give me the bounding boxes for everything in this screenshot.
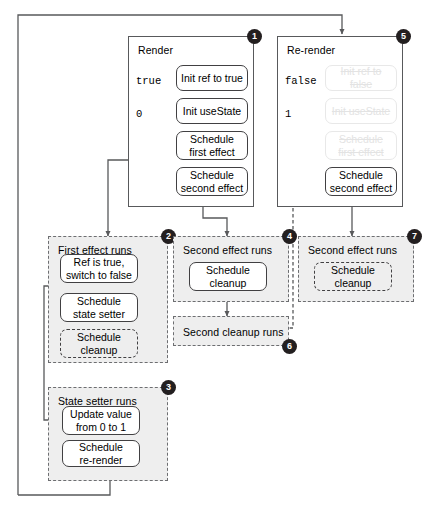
step-rerender-schedule-second-effect[interactable]: Schedule second effect [325,167,397,196]
badge-4: 4 [282,229,297,244]
panel-render-title: Render [138,44,173,56]
step-schedule-second-effect[interactable]: Schedule second effect [176,167,248,196]
panel-second-cleanup-runs: Second cleanup runs [173,316,289,346]
step-schedule-cleanup-second-2[interactable]: Schedule cleanup [314,262,392,291]
diagram-canvas: Render 1 true 0 Init ref to true Init us… [0,0,435,515]
step-schedule-first-effect-ghost: Schedule first effect [325,131,397,160]
panel-second-cleanup-runs-title: Second cleanup runs [183,326,284,338]
step-update-value-from-0-to-1[interactable]: Update value from 0 to 1 [62,406,140,435]
panel-second-effect-runs-2-title: Second effect runs [308,244,397,256]
badge-5: 5 [396,29,411,44]
rerender-value-one: 1 [285,108,291,120]
step-schedule-cleanup-second-1[interactable]: Schedule cleanup [189,262,267,291]
step-init-usestate[interactable]: Init useState [176,98,248,124]
panel-re-render-title: Re-render [287,44,335,56]
rerender-value-false: false [285,75,317,87]
step-schedule-state-setter[interactable]: Schedule state setter [60,293,138,322]
render-value-true: true [136,75,161,87]
render-value-zero: 0 [136,108,142,120]
badge-3: 3 [161,380,176,395]
step-ref-is-true-switch-to-false[interactable]: Ref is true, switch to false [60,254,138,283]
step-schedule-cleanup-first[interactable]: Schedule cleanup [60,329,138,358]
panel-second-effect-runs-1-title: Second effect runs [183,244,272,256]
badge-6: 6 [282,339,297,354]
step-init-ref-to-true[interactable]: Init ref to true [176,65,248,91]
step-init-ref-to-false-ghost: Init ref to false [325,65,397,91]
wire-second-effect [203,207,227,236]
step-init-usestate-ghost: Init useState [325,98,397,124]
badge-7: 7 [407,229,422,244]
step-schedule-first-effect[interactable]: Schedule first effect [176,131,248,160]
badge-1: 1 [247,29,262,44]
step-schedule-re-render[interactable]: Schedule re-render [62,440,140,467]
